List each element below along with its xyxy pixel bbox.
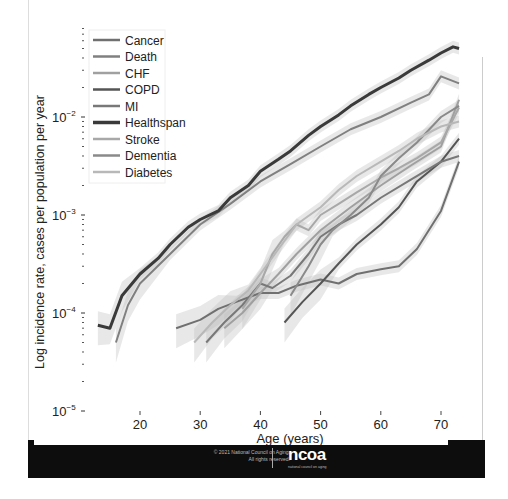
- legend-item-cancer: Cancer: [125, 34, 164, 48]
- legend: CancerDeathCHFCOPDMIHealthspanStrokeDeme…: [89, 30, 186, 183]
- x-axis: 203040506070: [133, 411, 448, 432]
- x-tick-label: 50: [313, 417, 327, 432]
- legend-item-stroke: Stroke: [125, 133, 160, 147]
- incidence-chart: 10−210−310−410−5 203040506070 Log incide…: [0, 0, 508, 445]
- ncoa-logo-tagline: national council on aging: [288, 465, 327, 469]
- x-tick-label: 60: [374, 417, 388, 432]
- footer-divider: [272, 448, 273, 468]
- y-tick-label: 10−2: [52, 109, 76, 125]
- legend-item-chf: CHF: [125, 67, 150, 81]
- x-tick-label: 70: [434, 417, 448, 432]
- legend-item-copd: COPD: [125, 83, 160, 97]
- ncoa-logo: ncoa: [288, 445, 326, 465]
- y-tick-label: 10−3: [52, 207, 76, 223]
- legend-item-healthspan: Healthspan: [125, 116, 186, 130]
- legend-item-diabetes: Diabetes: [125, 166, 172, 180]
- y-tick-label: 10−4: [52, 305, 76, 321]
- x-tick-label: 30: [193, 417, 207, 432]
- legend-item-death: Death: [125, 50, 157, 64]
- x-tick-label: 40: [253, 417, 267, 432]
- legend-item-dementia: Dementia: [125, 149, 177, 163]
- y-axis-label: Log incidence rate, cases per population…: [33, 95, 47, 369]
- y-tick-label: 10−5: [52, 403, 76, 419]
- legend-item-mi: MI: [125, 100, 138, 114]
- x-axis-label: Age (years): [256, 431, 323, 445]
- x-tick-label: 20: [133, 417, 147, 432]
- y-axis: 10−210−310−410−5: [52, 28, 85, 419]
